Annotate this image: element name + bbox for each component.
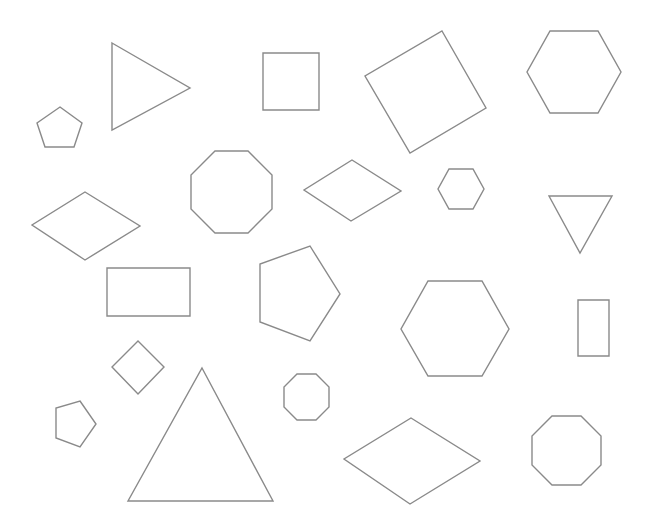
background xyxy=(0,0,650,525)
shapes-canvas xyxy=(0,0,650,525)
